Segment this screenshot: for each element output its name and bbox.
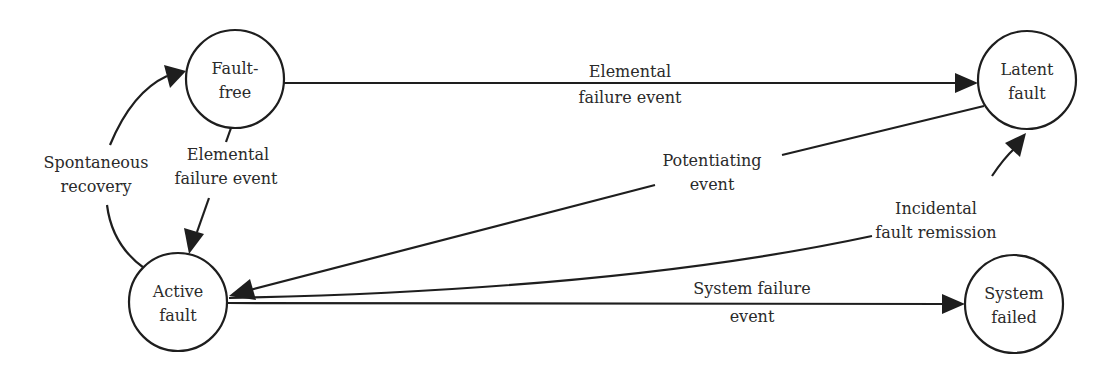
node-label-line1: Latent xyxy=(1001,60,1054,79)
edge-label-line2: failure event xyxy=(175,169,278,188)
arrowhead-icon xyxy=(184,228,204,254)
edge-label-line1: Elemental xyxy=(187,145,269,164)
node-label-line1: System xyxy=(984,284,1043,303)
edge-fault-free-to-latent-fault: Elemental failure event xyxy=(284,62,978,107)
node-latent-fault: Latent fault xyxy=(978,31,1076,129)
node-label-line1: Active xyxy=(152,282,204,301)
edge-active-fault-to-system-failed: System failure event xyxy=(228,279,965,326)
node-label-line2: fault xyxy=(159,306,197,325)
node-circle xyxy=(129,253,227,351)
edge-line-upper xyxy=(226,128,231,142)
arrowhead-icon xyxy=(942,294,965,314)
edge-label-line2: event xyxy=(730,307,775,326)
edge-latent-fault-to-active-fault: Potentiating event xyxy=(229,106,984,300)
edge-label-line1: Spontaneous xyxy=(43,153,148,172)
edge-line-lower xyxy=(197,198,209,232)
node-label-line2: fault xyxy=(1008,84,1046,103)
edge-fault-free-to-active-fault: Elemental failure event xyxy=(175,128,278,254)
edge-line xyxy=(228,303,945,304)
edge-curve-lower xyxy=(107,205,144,268)
edge-label-line2: fault remission xyxy=(875,223,996,242)
node-circle xyxy=(186,30,284,128)
edge-active-fault-to-latent-fault: Incidental fault remission xyxy=(229,133,1026,298)
node-fault-free: Fault- free xyxy=(186,30,284,128)
edge-label-line1: Elemental xyxy=(589,62,671,81)
arrowhead-icon xyxy=(164,65,186,88)
edge-label-line2: failure event xyxy=(579,88,682,107)
node-system-failed: System failed xyxy=(965,255,1063,353)
edge-curve-upper xyxy=(992,148,1015,176)
node-label-line1: Fault- xyxy=(212,59,259,78)
state-transition-diagram: Elemental failure event Spontaneous reco… xyxy=(0,0,1110,372)
node-circle xyxy=(978,31,1076,129)
node-active-fault: Active fault xyxy=(129,253,227,351)
edge-curve-upper xyxy=(110,76,167,145)
edge-active-fault-to-fault-free: Spontaneous recovery xyxy=(43,65,186,268)
edge-label-line1: Incidental xyxy=(895,199,977,218)
node-label-line2: failed xyxy=(991,308,1036,327)
node-circle xyxy=(965,255,1063,353)
edge-label-line1: System failure xyxy=(693,279,810,298)
edge-label-line2: event xyxy=(690,175,735,194)
edge-line-upper xyxy=(782,106,984,155)
edge-line-lower xyxy=(250,185,655,290)
edge-label-line2: recovery xyxy=(61,177,132,196)
edge-label-line1: Potentiating xyxy=(662,151,761,170)
node-label-line2: free xyxy=(219,83,252,102)
arrowhead-icon xyxy=(955,73,978,93)
